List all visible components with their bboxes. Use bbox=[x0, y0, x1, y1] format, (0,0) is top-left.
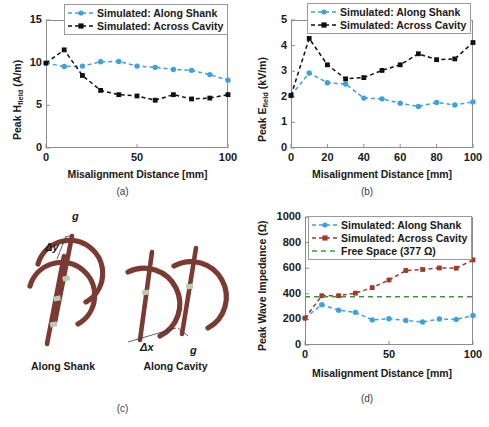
y-tick-label: 3 bbox=[247, 64, 287, 76]
legend-marker-line bbox=[68, 8, 94, 18]
panel-d-caption: (d) bbox=[245, 393, 489, 404]
panel-c-caption: (c) bbox=[0, 403, 245, 414]
panel-c-label-along-shank: Along Shank bbox=[8, 360, 118, 372]
split-ring-arc bbox=[174, 262, 226, 328]
legend-label: Simulated: Along Shank bbox=[340, 6, 460, 18]
panel-a-xlabel: Misalignment Distance [mm] bbox=[30, 168, 245, 180]
dim-label-delta-y: Δy bbox=[45, 241, 59, 253]
x-tick-label: 100 bbox=[451, 151, 489, 163]
y-tick-label: 5 bbox=[2, 98, 42, 110]
x-tick-label: 100 bbox=[451, 348, 489, 360]
x-tick-label: 50 bbox=[367, 348, 411, 360]
y-tick-label: 4 bbox=[247, 39, 287, 51]
dim-label-delta-x: Δx bbox=[140, 341, 154, 353]
panel-d-xlabel: Misalignment Distance [mm] bbox=[275, 367, 489, 379]
panel-b-caption: (b) bbox=[245, 186, 489, 197]
y-tick-label: 600 bbox=[261, 261, 301, 273]
panel-d-legend: Simulated: Along Shank Simulated: Across… bbox=[308, 216, 472, 260]
legend-marker-line bbox=[312, 246, 338, 256]
y-tick-label: 15 bbox=[2, 13, 42, 25]
panel-b-legend: Simulated: Along Shank Simulated: Across… bbox=[307, 3, 471, 34]
legend-item: Simulated: Across Cavity bbox=[312, 232, 467, 244]
legend-marker-line bbox=[312, 220, 338, 230]
legend-marker-line bbox=[312, 233, 338, 243]
legend-item: Free Space (377 Ω) bbox=[312, 245, 467, 257]
legend-item: Simulated: Along Shank bbox=[68, 7, 223, 19]
legend-marker-line bbox=[68, 21, 94, 31]
panel-b-xlabel: Misalignment Distance [mm] bbox=[275, 168, 489, 180]
y-tick-label: 1 bbox=[247, 115, 287, 127]
split-ring-arc bbox=[128, 268, 180, 336]
coil-shank bbox=[140, 252, 152, 340]
y-tick-label: 0 bbox=[247, 141, 287, 153]
dim-leader-delta-x bbox=[128, 328, 176, 342]
panel-c: g Δy Δx g Along Shank Along Cavity (c) bbox=[0, 200, 245, 427]
y-tick-label: 1000 bbox=[261, 210, 301, 222]
y-tick-label: 10 bbox=[2, 56, 42, 68]
y-tick-label: 0 bbox=[261, 338, 301, 350]
panel-a-legend: Simulated: Along Shank Simulated: Across… bbox=[64, 4, 228, 35]
legend-label: Simulated: Across Cavity bbox=[340, 19, 466, 31]
legend-item: Simulated: Along Shank bbox=[311, 6, 466, 18]
dim-label-g-right: g bbox=[190, 344, 197, 356]
legend-marker-line bbox=[311, 7, 337, 17]
legend-marker-line bbox=[311, 20, 337, 30]
panel-a-caption: (a) bbox=[0, 186, 245, 197]
coil-pair-along-cavity bbox=[128, 248, 226, 342]
y-tick-label: 400 bbox=[261, 287, 301, 299]
y-tick-label: 800 bbox=[261, 236, 301, 248]
legend-label: Free Space (377 Ω) bbox=[341, 245, 436, 257]
panel-d: Peak Wave Impedance (Ω) Misalignment Dis… bbox=[245, 205, 489, 427]
panel-a: Peak Hfield (A/m) Misalignment Distance … bbox=[0, 0, 245, 200]
panel-c-label-along-cavity: Along Cavity bbox=[118, 360, 233, 372]
panel-b: Peak Efield (kV/m) Misalignment Distance… bbox=[245, 0, 489, 200]
legend-label: Simulated: Across Cavity bbox=[97, 20, 223, 32]
x-tick-label: 50 bbox=[115, 151, 159, 163]
y-tick-label: 200 bbox=[261, 312, 301, 324]
y-tick-label: 0 bbox=[2, 141, 42, 153]
legend-label: Simulated: Along Shank bbox=[97, 7, 217, 19]
panel-c-diagram bbox=[0, 204, 245, 384]
y-tick-label: 2 bbox=[247, 90, 287, 102]
dim-label-g-left: g bbox=[72, 210, 79, 222]
legend-item: Simulated: Across Cavity bbox=[68, 20, 223, 32]
legend-label: Simulated: Along Shank bbox=[341, 219, 461, 231]
x-tick-label: 100 bbox=[206, 151, 250, 163]
legend-item: Simulated: Across Cavity bbox=[311, 19, 466, 31]
y-tick-label: 5 bbox=[247, 13, 287, 25]
figure-root: Peak Hfield (A/m) Misalignment Distance … bbox=[0, 0, 489, 427]
coil-pair-along-shank bbox=[30, 235, 103, 344]
legend-item: Simulated: Along Shank bbox=[312, 219, 467, 231]
legend-label: Simulated: Across Cavity bbox=[341, 232, 467, 244]
